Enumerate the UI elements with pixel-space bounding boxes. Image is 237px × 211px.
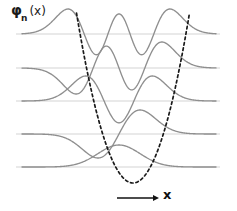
x-axis-arrow [117, 195, 159, 201]
x-axis-label: x [163, 188, 171, 201]
wavefunction-n0 [22, 145, 216, 167]
wavefunction-n2 [22, 76, 216, 123]
y-axis-label: φn(x) [11, 3, 46, 21]
x-arrow-head [153, 195, 159, 201]
phi-subscript: n [21, 13, 27, 23]
wavefunction-plot [0, 0, 237, 211]
harmonic-oscillator-figure: φn(x) x [0, 0, 237, 211]
phi-argument: (x) [29, 4, 45, 18]
baselines-group [16, 34, 220, 167]
